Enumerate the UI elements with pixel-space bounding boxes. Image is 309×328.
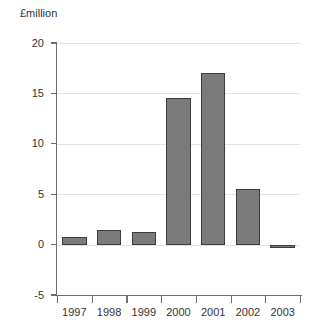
y-tick-mark: [51, 244, 57, 245]
x-tick-mark: [161, 296, 162, 303]
y-tick-label: 15: [0, 88, 44, 99]
x-tick-label-2002: 2002: [231, 306, 266, 318]
x-tick-label-2003: 2003: [265, 306, 300, 318]
bar-2003: [270, 245, 294, 248]
y-tick-mark: [51, 143, 57, 144]
gridline: [57, 245, 300, 246]
y-tick-mark: [51, 194, 57, 195]
bar-1998: [97, 230, 121, 244]
x-tick-mark: [265, 296, 266, 303]
bar-2001: [201, 73, 225, 244]
gridline: [57, 93, 300, 94]
bar-2000: [166, 98, 190, 244]
x-tick-mark: [196, 296, 197, 303]
y-tick-label: -5: [0, 290, 44, 301]
x-tick-mark: [57, 296, 58, 303]
x-tick-mark: [300, 296, 301, 303]
x-tick-mark: [92, 296, 93, 303]
gridline: [57, 43, 300, 44]
x-tick-label-1997: 1997: [57, 306, 92, 318]
x-tick-mark: [126, 296, 127, 303]
y-axis-unit-label: £million: [20, 6, 57, 20]
bar-1997: [62, 237, 86, 245]
bar-1999: [132, 232, 156, 245]
x-tick-mark: [231, 296, 232, 303]
y-tick-label: 20: [0, 38, 44, 49]
y-tick-label: 10: [0, 138, 44, 149]
x-tick-label-1999: 1999: [126, 306, 161, 318]
plot-area: [57, 43, 300, 295]
y-tick-mark: [51, 93, 57, 94]
y-tick-mark: [51, 42, 57, 43]
x-tick-label-1998: 1998: [92, 306, 127, 318]
bar-chart: £million 20151050-5 19971998199920002001…: [0, 0, 309, 328]
x-tick-label-2001: 2001: [196, 306, 231, 318]
x-tick-label-2000: 2000: [161, 306, 196, 318]
bar-2002: [236, 189, 260, 244]
y-tick-label: 5: [0, 189, 44, 200]
y-tick-label: 0: [0, 239, 44, 250]
